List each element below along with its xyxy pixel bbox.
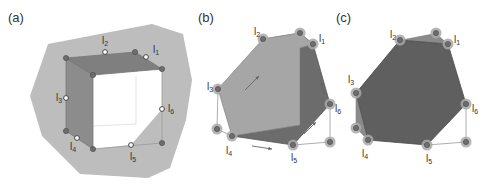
vertex-l1 [310, 41, 315, 46]
vertex-label-subscript: 6 [474, 108, 478, 115]
vertex-label-subscript: 2 [392, 34, 396, 41]
vertex-label-l3: l3 [207, 81, 213, 93]
cube-corner [132, 49, 137, 54]
vertex-label-subscript: 1 [321, 38, 325, 45]
bounding-edge [217, 89, 218, 129]
vertex-l4 [365, 137, 370, 142]
vertex-label-subscript: 3 [58, 97, 62, 104]
cube-corner [63, 55, 68, 60]
cube-corner [159, 140, 164, 145]
vertex-label-subscript: 1 [155, 49, 159, 56]
constraint-point-l5 [129, 143, 134, 148]
vertex-l4 [229, 133, 234, 138]
figure: (a)l1l2l3l4l5l6 (b)l1l2l3l4l5l6 (c)l1l2l… [0, 0, 492, 191]
box-corner [297, 30, 302, 35]
panel-c: (c)l1l2l3l4l5l6 [336, 10, 478, 165]
cube-corner [90, 72, 95, 77]
vertex-label-subscript: 4 [228, 150, 232, 157]
vertex-l3 [353, 90, 358, 95]
vertex-l3 [215, 86, 220, 91]
vertex-label-l5: l5 [426, 153, 432, 165]
bounding-edge [427, 142, 466, 145]
box-corner [327, 139, 332, 144]
cube-corner [90, 146, 95, 151]
panel-label-c: (c) [336, 10, 351, 25]
diagram-canvas: (a)l1l2l3l4l5l6 (b)l1l2l3l4l5l6 (c)l1l2l… [0, 0, 492, 191]
vertex-l6 [327, 101, 332, 106]
vertex-label-subscript: 5 [428, 158, 432, 165]
vertex-label-l6: l6 [335, 103, 341, 115]
constraint-point-l6 [160, 107, 165, 112]
vertex-label-subscript: 3 [350, 79, 354, 86]
constraint-point-l1 [144, 55, 149, 60]
final-polygon [356, 40, 466, 145]
polygon-light-face [218, 33, 313, 136]
panel-label-b: (b) [198, 10, 214, 25]
vertex-label-l2: l2 [254, 26, 260, 38]
vertex-label-l1: l1 [454, 34, 460, 46]
vertex-label-subscript: 6 [337, 108, 341, 115]
vertex-label-subscript: 3 [209, 86, 213, 93]
vertex-l2 [260, 36, 265, 41]
panel-b: (b)l1l2l3l4l5l6 [198, 10, 341, 164]
cube-corner [63, 128, 68, 133]
vertex-label-subscript: 5 [293, 157, 297, 164]
vertex-label-l1: l1 [319, 33, 325, 45]
box-corner [353, 125, 358, 130]
vertex-label-subscript: 4 [364, 153, 368, 160]
vertex-label-l2: l2 [390, 29, 396, 41]
vertex-l5 [424, 142, 429, 147]
box-corner [463, 139, 468, 144]
vertex-label-l4: l4 [362, 148, 368, 160]
constraint-point-l4 [75, 136, 80, 141]
vertex-label-subscript: 2 [256, 31, 260, 38]
vertex-l1 [445, 41, 450, 46]
vertex-label-subscript: 2 [104, 40, 108, 47]
vertex-label-subscript: 6 [170, 108, 174, 115]
vertex-label-subscript: 5 [132, 156, 136, 163]
constraint-point-l2 [103, 50, 108, 55]
box-corner [214, 126, 219, 131]
vertex-label-subscript: 1 [456, 39, 460, 46]
bounding-edge [293, 142, 330, 145]
constraint-point-l3 [64, 96, 69, 101]
cube-corner [159, 66, 164, 71]
vertex-label-l4: l4 [226, 145, 232, 157]
vertex-label-l3: l3 [348, 74, 354, 86]
vertex-label-subscript: 4 [72, 146, 76, 153]
vertex-l5 [290, 142, 295, 147]
vertex-label-l5: l5 [291, 152, 297, 164]
panel-label-a: (a) [8, 10, 24, 25]
vertex-label-l6: l6 [472, 103, 478, 115]
panel-a: (a)l1l2l3l4l5l6 [8, 10, 192, 178]
vertex-l2 [397, 37, 402, 42]
box-corner [433, 30, 438, 35]
vertex-l6 [463, 101, 468, 106]
